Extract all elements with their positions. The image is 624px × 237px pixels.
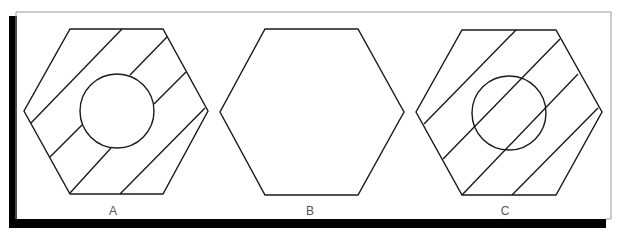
hatch-line [512,108,598,195]
frame-shadow-bottom [9,219,606,228]
hatch-line [70,148,111,193]
panel-c [416,30,602,195]
hatch-line [31,29,122,123]
diagram-canvas: A B C [0,0,624,237]
circle-a [80,74,154,148]
panel-label-c: C [501,204,510,218]
panel-label-b: B [306,204,314,218]
panel-b [220,29,404,195]
hexagon-b [220,29,404,195]
hexagon-a [24,29,208,194]
hatch-line [50,125,82,157]
hatch-line [154,72,186,104]
frame-border [16,12,611,219]
hatch-line [443,39,560,159]
circle-c [472,76,546,150]
panel-a [24,29,208,194]
panel-label-a: A [109,204,117,218]
hatch-line [120,108,205,194]
hatch-line [130,37,167,75]
hexagon-c [416,30,602,195]
